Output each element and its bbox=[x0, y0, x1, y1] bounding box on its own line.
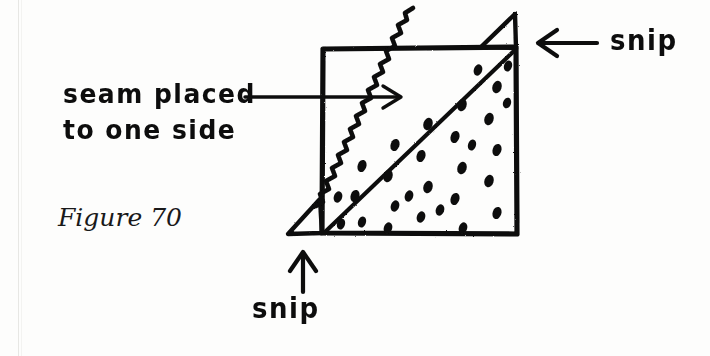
snip-triangle-top-right bbox=[481, 14, 516, 48]
figure-caption: Figure 70 bbox=[58, 203, 182, 232]
seam-label-line-2: to one side bbox=[63, 116, 236, 143]
figure-page: seam placed to one side snip snip Figure… bbox=[0, 0, 710, 356]
snip-label-right: snip bbox=[610, 26, 678, 54]
dotted-triangle bbox=[332, 59, 513, 234]
seam-label-line-1: seam placed bbox=[63, 80, 256, 107]
diagram-drawing bbox=[0, 0, 710, 356]
straight-seam-line bbox=[325, 49, 516, 232]
snip-arrow-right bbox=[538, 30, 597, 56]
snip-label-bottom: snip bbox=[252, 294, 320, 322]
wavy-seam-line bbox=[316, 8, 413, 206]
snip-arrow-bottom bbox=[290, 252, 316, 292]
